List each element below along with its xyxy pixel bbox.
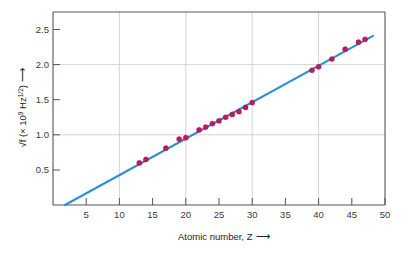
x-tick-label: 25 [214,209,225,220]
x-tick-label: 20 [181,209,192,220]
data-point [309,68,314,73]
data-point [216,118,221,123]
x-tick-label: 45 [347,209,358,220]
data-point [329,56,334,61]
data-point [243,105,248,110]
y-axis-title-units: (× 10 [17,115,28,137]
y-tick-label: 0.5 [36,164,49,175]
x-axis-tick-labels: 5 10 15 20 25 30 35 40 45 50 [84,209,391,220]
y-tick-label: 2.5 [36,24,49,35]
data-point [362,37,367,42]
x-tick-label: 40 [313,209,324,220]
x-axis-arrow-icon: ⟶ [256,231,270,242]
x-tick-label: 30 [247,209,258,220]
svg-text:√f (× 109 Hz1/2) ⟶: √f (× 109 Hz1/2) ⟶ [17,68,29,147]
y-axis-tick-labels: 0.5 1.0 1.5 2.0 2.5 [36,24,49,176]
y-tick-label: 1.0 [36,129,49,140]
data-point [316,64,321,69]
x-tick-label: 5 [84,209,89,220]
chart-canvas: 0.5 1.0 1.5 2.0 2.5 5 10 15 20 25 30 35 … [0,0,412,254]
data-point [137,160,142,165]
y-axis-title-units2: Hz [17,97,28,112]
data-point [163,146,168,151]
data-point [223,115,228,120]
y-tick-label: 2.0 [36,59,49,70]
x-tick-label: 35 [280,209,291,220]
x-tick-label: 50 [380,209,391,220]
x-axis-title: Atomic number, Z ⟶ [178,231,270,242]
moseley-law-chart: 0.5 1.0 1.5 2.0 2.5 5 10 15 20 25 30 35 … [0,0,412,254]
data-point [250,100,255,105]
data-point [230,112,235,117]
x-tick-label: 10 [114,209,125,220]
x-axis-title-text: Atomic number, Z [178,231,253,242]
y-axis-title-exp2: 1/2 [17,88,24,97]
data-point [196,127,201,132]
data-point [177,136,182,141]
y-axis-title: √f (× 109 Hz1/2) ⟶ [17,68,29,147]
y-tick-label: 1.5 [36,94,49,105]
data-point [343,47,348,52]
data-point [183,135,188,140]
x-tick-label: 15 [147,209,158,220]
plot-background [53,12,385,205]
data-point [236,109,241,114]
data-point [143,157,148,162]
data-point [210,121,215,126]
data-point [203,124,208,129]
data-point [356,40,361,45]
y-axis-arrow-icon: ⟶ [17,68,28,82]
